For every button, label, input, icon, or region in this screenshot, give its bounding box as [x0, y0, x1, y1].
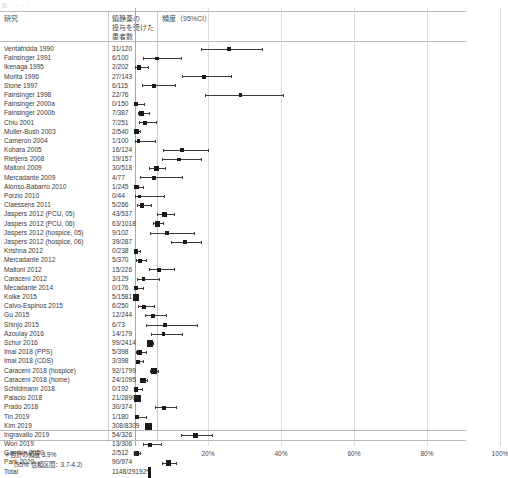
patient-count: 92/1799 [112, 366, 156, 375]
patient-count: 2/540 [112, 127, 156, 136]
patient-count: 1/180 [112, 412, 156, 421]
study-rows: Ventafridda 199031/120Fainsinger 19916/1… [0, 44, 466, 476]
table-row: Cameron 20041/100 [0, 136, 466, 145]
patient-count: 5/370 [112, 255, 156, 264]
table-row: Calvo-Espinos 20156/250 [0, 301, 466, 310]
study-label: Schildmann 2018 [4, 384, 106, 393]
study-label: Calvo-Espinos 2015 [4, 301, 106, 310]
patient-count: 6/73 [112, 320, 156, 329]
table-row: Jaspers 2012 (PCU, 05)43/537 [0, 209, 466, 218]
patient-count: 31/120 [112, 44, 156, 53]
table-row: Stone 19976/115 [0, 81, 466, 90]
study-label: Caraceni 2018 (home) [4, 375, 106, 384]
table-row: Ingravallo 201954/326 [0, 430, 466, 439]
patient-count: 54/326 [112, 430, 156, 439]
study-label: Ventafridda 1990 [4, 44, 106, 53]
table-row: Imai 2018 (CDS)3/398 [0, 356, 466, 365]
patient-count: 0/176 [112, 283, 156, 292]
study-label: Ingravallo 2019 [4, 430, 106, 439]
patient-count: 3/129 [112, 274, 156, 283]
patient-count: 0/192 [112, 384, 156, 393]
table-row: Fainsinger 2000b7/387 [0, 108, 466, 117]
study-label: Porzio 2010 [4, 191, 106, 200]
patient-count: 30/374 [112, 402, 156, 411]
study-label: Imai 2018 (PPS) [4, 347, 106, 356]
axis-tick-80: 80% [420, 450, 433, 457]
study-label: Morita 1996 [4, 72, 106, 81]
patient-count: 16/124 [112, 145, 156, 154]
axis-tick-100: 100% [492, 450, 508, 457]
column-header-study: 研究 [4, 14, 104, 23]
footnote-line-2: （95% 信頼区間：3.7-4.2） [4, 460, 154, 470]
patient-count: 9/102 [112, 228, 156, 237]
table-row: Kohara 200516/124 [0, 145, 466, 154]
table-row: Alonso-Babarro 20101/245 [0, 182, 466, 191]
study-label: Muller-Bush 2003 [4, 127, 106, 136]
study-label: Fainsinger 2000b [4, 108, 106, 117]
patient-count: 21/2890 [112, 393, 156, 402]
study-label: Azoulay 2016 [4, 329, 106, 338]
gridline-100 [500, 8, 501, 446]
table-row: Morita 199627/143 [0, 72, 466, 81]
study-label: Jaspers 2012 (PCU, 06) [4, 219, 106, 228]
patient-count: 308/8309 [112, 421, 156, 430]
table-row: Schur 201699/2414 [0, 338, 466, 347]
study-label: Caraceni 2018 (hospice) [4, 366, 106, 375]
study-label: Rietjens 2008 [4, 154, 106, 163]
study-label: Krishna 2012 [4, 246, 106, 255]
patient-count: 15/226 [112, 265, 156, 274]
study-label: Jaspers 2012 (hospice, 06) [4, 237, 106, 246]
study-label: Caraceni 2012 [4, 274, 106, 283]
table-row: Koike 20155/1581 [0, 292, 466, 301]
patient-count: 7/387 [112, 108, 156, 117]
patient-count: 12/244 [112, 310, 156, 319]
patient-count: 5/266 [112, 200, 156, 209]
patient-count: 99/2414 [112, 338, 156, 347]
x-axis: 020%40%60%80%100% [158, 446, 466, 460]
study-label: Kim 2019 [4, 421, 106, 430]
patient-count: 4/77 [112, 173, 156, 182]
total-rule-bottom [0, 440, 466, 441]
study-label: Cameron 2004 [4, 136, 106, 145]
patient-count: 0/150 [112, 99, 156, 108]
patient-count: 24/1095 [112, 375, 156, 384]
footnote-line-1: ＊合計の頻度 3.9% [4, 450, 154, 460]
table-row: Shinjo 20156/73 [0, 320, 466, 329]
table-row: Maltoni 201215/226 [0, 265, 466, 274]
study-label: Prado 2018 [4, 402, 106, 411]
table-row: Caraceni 2018 (hospice)92/1799 [0, 366, 466, 375]
table-row: Jaspers 2012 (hospice, 06)39/287 [0, 237, 466, 246]
study-label: Imai 2018 (CDS) [4, 356, 106, 365]
table-row: Claessens 20115/266 [0, 200, 466, 209]
patient-count: 43/537 [112, 209, 156, 218]
study-label: Maltoni 2012 [4, 265, 106, 274]
patient-count: 1/100 [112, 136, 156, 145]
patient-count: 27/143 [112, 72, 156, 81]
table-row: Jaspers 2012 (PCU, 06)63/1018 [0, 219, 466, 228]
table-row: Schildmann 20180/192 [0, 384, 466, 393]
column-header-patients: 鎮静薬の 投与を受けた 患者数 [112, 14, 156, 41]
table-row: Caraceni 2018 (home)24/1095 [0, 375, 466, 384]
table-row: Palacio 201821/2890 [0, 393, 466, 402]
table-row: Mercadante 20125/370 [0, 255, 466, 264]
study-label: Mercadante 2009 [4, 173, 106, 182]
study-label: Jaspers 2012 (PCU, 05) [4, 209, 106, 218]
table-row: Ventafridda 199031/120 [0, 44, 466, 53]
study-label: Gu 2015 [4, 310, 106, 319]
axis-tick-60: 60% [347, 450, 360, 457]
study-label: Claessens 2011 [4, 200, 106, 209]
patient-count: 30/518 [112, 163, 156, 172]
study-label: Alonso-Babarro 2010 [4, 182, 106, 191]
study-label: Chiu 2001 [4, 118, 106, 127]
patient-count: 6/115 [112, 81, 156, 90]
patient-count: 0/238 [112, 246, 156, 255]
study-label: Koike 2015 [4, 292, 106, 301]
table-row: Fainsinger 199822/76 [0, 90, 466, 99]
table-row: Fainsinger 19916/100 [0, 53, 466, 62]
table-row: Mercadante 20094/77 [0, 173, 466, 182]
table-row: Caraceni 20123/129 [0, 274, 466, 283]
study-label: Palacio 2018 [4, 393, 106, 402]
study-label: Shinjo 2015 [4, 320, 106, 329]
patient-count: 19/157 [112, 154, 156, 163]
